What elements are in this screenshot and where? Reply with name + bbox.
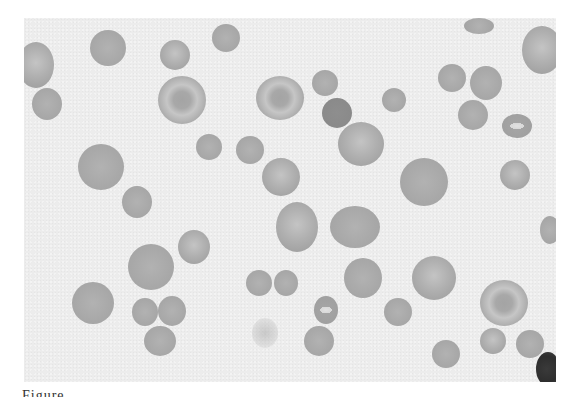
red-blood-cell xyxy=(276,202,318,252)
red-blood-cell xyxy=(312,70,338,96)
red-blood-cell xyxy=(458,100,488,130)
red-blood-cell xyxy=(262,158,300,196)
red-blood-cell xyxy=(464,18,494,34)
red-blood-cell xyxy=(256,76,304,120)
red-blood-cell xyxy=(24,42,54,88)
red-blood-cell xyxy=(330,206,380,248)
red-blood-cell xyxy=(516,330,544,358)
red-blood-cell xyxy=(540,216,556,244)
red-blood-cell xyxy=(144,326,176,356)
red-blood-cell xyxy=(128,244,174,290)
white-blood-cell xyxy=(536,352,556,382)
red-blood-cell xyxy=(274,270,298,296)
red-blood-cell xyxy=(384,298,412,326)
red-blood-cell xyxy=(246,270,272,296)
red-blood-cell xyxy=(500,160,530,190)
red-blood-cell xyxy=(236,136,264,164)
red-blood-cell xyxy=(344,258,382,298)
red-blood-cell xyxy=(480,280,528,326)
red-blood-cell xyxy=(470,66,502,100)
red-blood-cell xyxy=(502,114,532,138)
red-blood-cell xyxy=(412,256,456,300)
red-blood-cell xyxy=(432,340,460,368)
red-blood-cell xyxy=(178,230,210,264)
red-blood-cell xyxy=(158,76,206,124)
figure-caption-fragment: Figure xyxy=(22,389,65,397)
red-blood-cell xyxy=(338,122,384,166)
red-blood-cell xyxy=(132,298,158,326)
red-blood-cell xyxy=(122,186,152,218)
red-blood-cell xyxy=(304,326,334,356)
red-blood-cell xyxy=(438,64,466,92)
red-blood-cell xyxy=(322,98,352,128)
red-blood-cell xyxy=(400,158,448,206)
red-blood-cell xyxy=(78,144,124,190)
red-blood-cell xyxy=(32,88,62,120)
red-blood-cell xyxy=(160,40,190,70)
red-blood-cell xyxy=(480,328,506,354)
blood-smear-image xyxy=(24,18,556,382)
red-blood-cell xyxy=(158,296,186,326)
red-blood-cell xyxy=(212,24,240,52)
red-blood-cell xyxy=(522,26,556,74)
red-blood-cell xyxy=(252,318,278,348)
red-blood-cell xyxy=(196,134,222,160)
red-blood-cell xyxy=(382,88,406,112)
red-blood-cell xyxy=(314,296,338,324)
red-blood-cell xyxy=(90,30,126,66)
red-blood-cell xyxy=(72,282,114,324)
